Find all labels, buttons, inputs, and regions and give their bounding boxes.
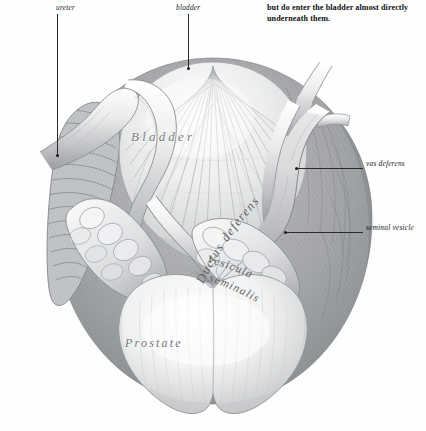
callout-label-bladder: bladder [176, 3, 200, 12]
callout-label-vas-deferens: vas deferens [366, 159, 405, 168]
callout-label-seminal-vesicle: seminal vesicle [366, 223, 414, 232]
caption-text: but do enter the bladder almost directly… [267, 2, 423, 24]
callout-label-ureter: ureter [56, 3, 75, 12]
plate-label-bladder: Bladder [131, 129, 195, 145]
engraving-page: Ductus deferens Vesicula seminalis Bladd… [0, 0, 426, 431]
anatomy-illustration: Ductus deferens Vesicula seminalis [0, 0, 426, 431]
leader-line-vas-deferens [297, 168, 363, 169]
plate-label-prostate: Prostate [125, 336, 183, 351]
leader-dot-seminal-vesicle [284, 231, 287, 234]
leader-line-bladder [188, 14, 189, 69]
leader-dot-vas-deferens [295, 167, 298, 170]
leader-dot-bladder [187, 67, 190, 70]
leader-dot-ureter [56, 154, 59, 157]
leader-line-ureter [57, 14, 58, 156]
leader-line-seminal-vesicle [286, 232, 363, 233]
